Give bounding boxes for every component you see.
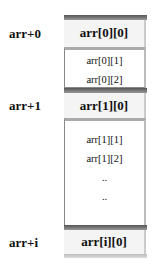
pointer-label-arr-0: arr+0 xyxy=(9,26,41,42)
cell-0-1: arr[0][1] xyxy=(65,51,144,70)
row-i-bottom-bar xyxy=(64,254,147,258)
row-i-head-cell: arr[i][0] xyxy=(64,230,146,254)
cell-0-2: arr[0][2] xyxy=(65,70,144,89)
ellipsis-1: .. xyxy=(65,168,144,187)
ellipsis-2: .. xyxy=(65,187,144,206)
row-1-rest-block: arr[1][1] arr[1][2] .. .. xyxy=(64,118,146,226)
pointer-label-arr-1: arr+1 xyxy=(9,98,41,114)
cell-1-2: arr[1][2] xyxy=(65,149,144,168)
pointer-label-arr-i: arr+i xyxy=(9,235,38,251)
row-1-head-cell: arr[1][0] xyxy=(64,93,146,119)
row-0-head-cell: arr[0][0] xyxy=(64,20,146,48)
cell-1-1: arr[1][1] xyxy=(65,130,144,149)
row-0-rest-block: arr[0][1] arr[0][2] xyxy=(64,47,146,88)
